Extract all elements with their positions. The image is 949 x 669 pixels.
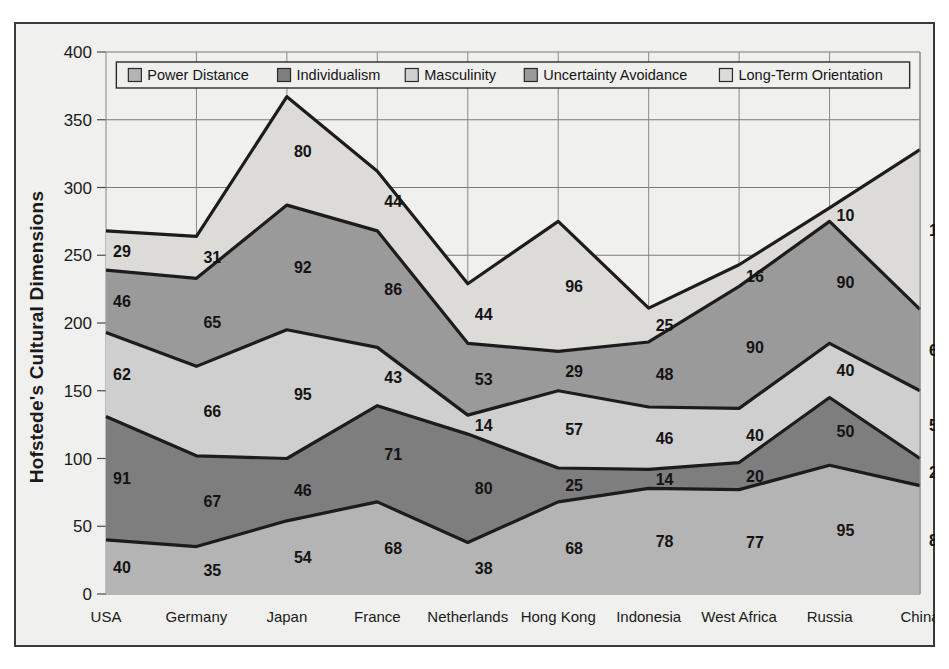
- area-layers: [106, 97, 920, 594]
- data-label: 46: [656, 430, 674, 447]
- data-label: 40: [837, 362, 855, 379]
- x-tick-label: West Africa: [701, 608, 777, 625]
- y-tick-label: 250: [64, 246, 92, 265]
- legend-label-2: Masculinity: [424, 67, 496, 83]
- data-label: 31: [203, 249, 221, 266]
- x-tick-label: France: [354, 608, 401, 625]
- data-label: 14: [475, 417, 493, 434]
- x-tick-label: Russia: [807, 608, 854, 625]
- stacked-area-chart: 0501001502002503003504004035546838687877…: [62, 24, 935, 649]
- data-label: 91: [113, 470, 131, 487]
- y-tick-label: 400: [64, 43, 92, 62]
- plot-area: 0501001502002503003504004035546838687877…: [62, 24, 935, 649]
- legend-swatch-4: [719, 69, 732, 82]
- data-label: 53: [475, 371, 493, 388]
- data-label: 67: [203, 493, 221, 510]
- chart-frame: Hofstede's Cultural Dimensions 050100150…: [14, 22, 935, 647]
- data-label: 48: [656, 366, 674, 383]
- legend-swatch-2: [405, 69, 418, 82]
- data-label: 43: [384, 369, 402, 386]
- data-label: 14: [656, 471, 674, 488]
- data-label: 29: [113, 243, 131, 260]
- data-label: 44: [475, 306, 493, 323]
- data-label: 77: [746, 534, 764, 551]
- y-tick-label: 300: [64, 179, 92, 198]
- data-label: 80: [294, 143, 312, 160]
- data-label: 65: [203, 314, 221, 331]
- legend: Power DistanceIndividualismMasculinityUn…: [116, 62, 909, 88]
- data-label: 35: [203, 562, 221, 579]
- data-label: 60: [929, 342, 935, 359]
- y-axis-title: Hofstede's Cultural Dimensions: [14, 24, 60, 649]
- data-label: 68: [384, 540, 402, 557]
- data-label: 46: [113, 293, 131, 310]
- data-label: 20: [746, 468, 764, 485]
- x-axis-labels: USAGermanyJapanFranceNetherlandsHong Kon…: [91, 608, 935, 625]
- data-label: 118: [929, 222, 935, 239]
- legend-label-1: Individualism: [297, 67, 381, 83]
- data-label: 66: [203, 403, 221, 420]
- y-tick-label: 200: [64, 314, 92, 333]
- data-label: 54: [294, 549, 312, 566]
- y-tick-label: 150: [64, 382, 92, 401]
- data-label: 95: [837, 522, 855, 539]
- x-tick-label: Germany: [166, 608, 228, 625]
- x-tick-label: China: [900, 608, 935, 625]
- data-label: 80: [929, 532, 935, 549]
- y-tick-label: 0: [83, 585, 92, 604]
- data-label: 57: [565, 421, 583, 438]
- data-label: 71: [384, 446, 402, 463]
- data-label: 80: [475, 480, 493, 497]
- data-label: 95: [294, 386, 312, 403]
- data-label: 92: [294, 259, 312, 276]
- data-label: 46: [294, 482, 312, 499]
- data-label: 25: [565, 477, 583, 494]
- legend-swatch-3: [524, 69, 537, 82]
- data-label: 40: [113, 559, 131, 576]
- y-tick-label: 350: [64, 111, 92, 130]
- y-axis-title-text: Hofstede's Cultural Dimensions: [26, 190, 48, 482]
- data-label: 50: [929, 417, 935, 434]
- data-label: 96: [565, 278, 583, 295]
- data-label: 20: [929, 464, 935, 481]
- data-label: 78: [656, 533, 674, 550]
- data-label: 25: [656, 317, 674, 334]
- legend-swatch-1: [278, 69, 291, 82]
- y-tick-label: 100: [64, 450, 92, 469]
- data-label: 44: [384, 193, 402, 210]
- data-label: 38: [475, 560, 493, 577]
- x-tick-label: Japan: [266, 608, 307, 625]
- data-label: 40: [746, 427, 764, 444]
- data-label: 16: [746, 268, 764, 285]
- data-label: 29: [565, 363, 583, 380]
- data-label: 90: [746, 339, 764, 356]
- legend-swatch-0: [128, 69, 141, 82]
- data-label: 68: [565, 540, 583, 557]
- x-tick-label: Indonesia: [616, 608, 682, 625]
- data-label: 62: [113, 366, 131, 383]
- legend-label-0: Power Distance: [147, 67, 249, 83]
- data-label: 90: [837, 274, 855, 291]
- legend-label-4: Long-Term Orientation: [738, 67, 882, 83]
- legend-label-3: Uncertainty Avoidance: [543, 67, 687, 83]
- x-tick-label: Hong Kong: [521, 608, 596, 625]
- data-label: 86: [384, 281, 402, 298]
- x-tick-label: USA: [91, 608, 122, 625]
- x-tick-label: Netherlands: [427, 608, 508, 625]
- y-tick-label: 50: [73, 517, 92, 536]
- data-label: 50: [837, 423, 855, 440]
- data-label: 10: [837, 207, 855, 224]
